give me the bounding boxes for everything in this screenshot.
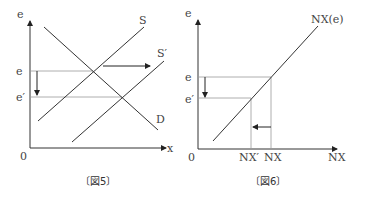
y-axis-label: e bbox=[185, 7, 192, 20]
e-prime-label: e′ bbox=[185, 93, 195, 106]
y-axis-label: e bbox=[17, 8, 24, 21]
x-axis-label: x bbox=[167, 142, 174, 155]
e-label: e bbox=[16, 65, 23, 78]
nx-prime-tick-label: NX′ bbox=[239, 151, 259, 164]
origin-label: 0 bbox=[20, 150, 27, 163]
nx-curve bbox=[213, 26, 318, 141]
demand-curve-d bbox=[44, 27, 158, 130]
d-label: D bbox=[156, 113, 165, 126]
e-prime-label: e′ bbox=[16, 91, 26, 104]
e-label: e bbox=[185, 71, 192, 84]
s-prime-label: S′ bbox=[157, 47, 168, 60]
figure-6-caption: 〔図6〕 bbox=[250, 176, 286, 187]
x-axis-label: NX bbox=[328, 151, 346, 164]
figure-5: e x 0 e e′ S S′ D 〔図5〕 bbox=[16, 8, 174, 187]
supply-curve-s bbox=[38, 27, 144, 121]
nx-e-curve-label: NX(e) bbox=[311, 13, 344, 26]
s-label: S bbox=[139, 14, 147, 27]
supply-curve-s-prime bbox=[72, 61, 164, 142]
origin-label: 0 bbox=[188, 151, 195, 164]
figure-6: e NX 0 e e′ NX′ NX NX(e) 〔図6〕 bbox=[185, 7, 346, 187]
diagram-canvas: e x 0 e e′ S S′ D 〔図5〕 e NX 0 e e′ NX′ N… bbox=[0, 0, 368, 200]
nx-tick-label: NX bbox=[264, 151, 282, 164]
figure-5-caption: 〔図5〕 bbox=[80, 176, 116, 187]
